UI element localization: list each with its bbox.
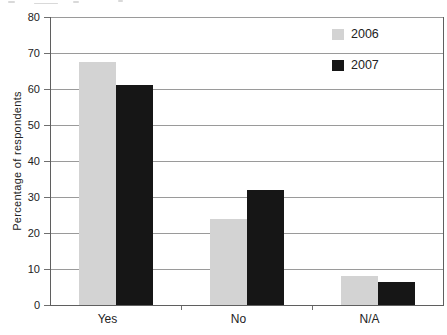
plot-right-border <box>443 17 444 306</box>
x-category-label-yes: Yes <box>73 312 143 326</box>
legend-swatch-2007 <box>332 60 344 71</box>
bar-2006-na <box>341 276 378 305</box>
bar-2007-yes <box>116 85 153 305</box>
bar-2007-no <box>247 190 284 305</box>
cropped-text-remnant <box>8 1 15 3</box>
bar-2006-no <box>210 219 247 305</box>
legend-swatch-2006 <box>332 29 344 40</box>
x-category-label-na: N/A <box>335 312 405 326</box>
bar-2006-yes <box>79 62 116 305</box>
y-tick-label-40: 40 <box>12 156 40 167</box>
legend-label-2006: 2006 <box>351 27 379 41</box>
gridline-80 <box>50 17 443 18</box>
x-axis-line <box>50 305 444 306</box>
cropped-text-remnant <box>73 1 79 3</box>
y-tick-label-30: 30 <box>12 192 40 203</box>
bar-2007-na <box>378 282 415 305</box>
y-tick-label-50: 50 <box>12 120 40 131</box>
y-tick-label-10: 10 <box>12 264 40 275</box>
y-tick-label-70: 70 <box>12 48 40 59</box>
cropped-text-remnant <box>34 3 58 4</box>
x-category-label-no: No <box>204 312 274 326</box>
y-axis-line <box>50 17 51 306</box>
y-tick-label-80: 80 <box>12 12 40 23</box>
gridline-70 <box>50 53 443 54</box>
y-tick-label-20: 20 <box>12 228 40 239</box>
bar-chart-figure: Percentage of respondents 80706050403020… <box>0 0 447 335</box>
legend-label-2007: 2007 <box>351 58 379 72</box>
cropped-text-remnant <box>118 0 123 2</box>
x-tick-1 <box>181 306 182 310</box>
y-tick-label-60: 60 <box>12 84 40 95</box>
y-tick-label-0: 0 <box>12 300 40 311</box>
x-tick-2 <box>312 306 313 310</box>
